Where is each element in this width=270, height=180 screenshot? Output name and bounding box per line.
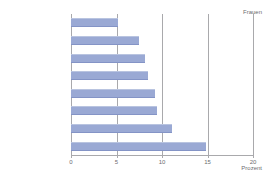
bar-fette xyxy=(71,54,145,63)
bar-row xyxy=(71,124,172,133)
tick-label-15: 15 xyxy=(204,159,211,166)
tick-20 xyxy=(253,155,254,158)
bar-fleisch-wurst xyxy=(71,36,139,45)
bar-row xyxy=(71,71,148,80)
bar-backwaren xyxy=(71,18,118,27)
tick-label-5: 5 xyxy=(115,159,118,166)
bar-milch-k-se xyxy=(71,124,172,133)
bar-brot xyxy=(71,142,206,151)
gridline-20 xyxy=(253,14,254,155)
gridline-10 xyxy=(162,14,163,155)
gridline-15 xyxy=(208,14,209,155)
plot-area xyxy=(71,14,253,155)
bar-row xyxy=(71,54,145,63)
bar-row xyxy=(71,142,206,151)
tick-15 xyxy=(208,155,209,158)
bar-chart: Frauen 05101520 BackwarenFleisch, WurstF… xyxy=(0,0,270,180)
bar-row xyxy=(71,36,139,45)
bar-row xyxy=(71,18,118,27)
bar-row xyxy=(71,106,157,115)
bar-obst xyxy=(71,89,155,98)
tick-0 xyxy=(71,155,72,158)
tick-5 xyxy=(117,155,118,158)
tick-label-0: 0 xyxy=(69,159,72,166)
bar-alkoholfr-getr-nke xyxy=(71,71,148,80)
bar-s-waren xyxy=(71,106,157,115)
tick-label-10: 10 xyxy=(159,159,166,166)
tick-10 xyxy=(162,155,163,158)
bar-row xyxy=(71,89,155,98)
x-axis-title: Prozent xyxy=(241,165,262,172)
